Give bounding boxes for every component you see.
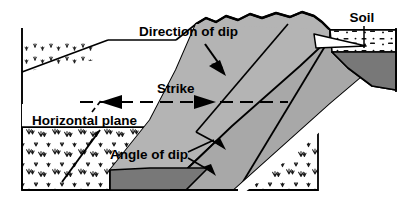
- soil-label: Soil: [350, 10, 375, 25]
- block-diagram: Strike Direction of dip Horizontal plane…: [0, 0, 400, 211]
- soil-annotation: Soil: [350, 10, 375, 25]
- angle-of-dip-label: Angle of dip: [110, 147, 188, 162]
- strike-label: Strike: [157, 81, 195, 96]
- figure-canvas: Strike Direction of dip Horizontal plane…: [0, 0, 400, 211]
- direction-of-dip-label: Direction of dip: [139, 24, 238, 39]
- horizontal-plane-label: Horizontal plane: [32, 113, 137, 128]
